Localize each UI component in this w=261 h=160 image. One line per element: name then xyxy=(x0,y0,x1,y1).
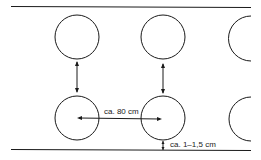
top-border-line xyxy=(11,7,251,8)
bottom-border-line xyxy=(11,150,251,151)
circle-top-left xyxy=(55,15,99,59)
circle-bottom-middle xyxy=(141,96,185,140)
arrowhead-icon xyxy=(157,117,162,121)
horizontal-spacing-label: ca. 80 cm xyxy=(104,107,139,116)
arrowhead-icon xyxy=(161,89,165,94)
arrowhead-icon xyxy=(75,88,79,93)
spacing-diagram xyxy=(0,0,261,160)
circle-top-middle xyxy=(141,15,185,59)
arrowhead-icon xyxy=(77,116,82,120)
arrowhead-icon xyxy=(161,63,165,68)
horizontal-arrow xyxy=(79,118,160,119)
edge-gap-label: ca. 1–1,5 cm xyxy=(170,140,216,149)
arrowhead-icon xyxy=(75,61,79,66)
partial-circle-top-right xyxy=(229,16,252,61)
arrowhead-icon xyxy=(162,147,165,150)
partial-circle-bottom-right xyxy=(229,97,251,141)
arrowhead-icon xyxy=(162,141,165,144)
